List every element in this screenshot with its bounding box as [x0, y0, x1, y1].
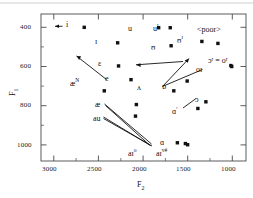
- data-point-marker: [169, 44, 172, 47]
- data-point-marker: [196, 107, 199, 110]
- data-point-marker: [103, 89, 106, 92]
- y-axis-title-sub: 1: [13, 89, 19, 92]
- point-label: ɑ: [160, 139, 164, 147]
- line-ae-to-ai: [106, 106, 150, 146]
- x-tick-1500: 1500: [176, 165, 191, 173]
- data-point-marker: [186, 143, 189, 146]
- point-label: i: [66, 21, 68, 29]
- data-point-marker: [204, 100, 207, 103]
- x-tick-3000: 3000: [42, 165, 57, 173]
- point-label-base: ɔ: [195, 95, 199, 104]
- point-label: ɛ: [98, 60, 101, 68]
- x-tick-1000: 1000: [221, 165, 236, 173]
- point-label: ɒ: [162, 83, 166, 91]
- data-point-marker: [135, 103, 138, 106]
- point-label-base: oɪ: [196, 65, 202, 74]
- point-label: au: [93, 115, 101, 123]
- point-label: oɪ: [196, 66, 202, 74]
- x-tick-2500: 2500: [87, 165, 102, 173]
- point-label: ɔʳ = oʳ: [208, 57, 228, 65]
- line-ae-to-ai-2: [105, 104, 152, 144]
- data-point-marker: [216, 42, 219, 45]
- data-point-marker: [117, 64, 120, 67]
- point-label: ʌ: [137, 84, 141, 92]
- point-label: ɔ: [195, 96, 199, 104]
- x-axis-title: F2: [137, 180, 144, 191]
- point-label: ɪ: [95, 38, 97, 46]
- point-label: uɪ: [153, 25, 159, 33]
- vowel-formant-chart: 400 600 800 1000 3000 2500 2000 1500 100…: [0, 0, 253, 198]
- point-label: ʊ: [151, 44, 155, 52]
- data-point-marker: [83, 26, 86, 29]
- point-label: æ: [95, 101, 100, 109]
- x-axis-title-sub: 2: [141, 185, 144, 191]
- point-label-base: ʌ: [137, 83, 141, 92]
- point-label: ʊɪ: [177, 37, 183, 45]
- data-point-marker: [172, 89, 175, 92]
- point-label-base: ʊ: [151, 43, 155, 52]
- y-tick-1000: 1000: [17, 141, 32, 149]
- point-label-base: ɒ: [162, 82, 166, 91]
- point-label-base: i: [66, 20, 68, 29]
- data-point-marker: [200, 40, 203, 43]
- point-label-base: ɔʳ = oʳ: [208, 56, 228, 65]
- point-label: ɑʳ: [172, 108, 177, 116]
- point-label-superscript: N: [75, 77, 79, 83]
- point-label: u: [128, 25, 132, 33]
- point-label-superscript: ʳ: [176, 105, 177, 111]
- point-label-base: ɪ: [95, 37, 97, 46]
- data-point-markers: [83, 26, 234, 147]
- y-axis-title-text: F: [8, 92, 17, 96]
- arrow-o-horizontal: [136, 62, 183, 65]
- y-tick-600: 600: [20, 62, 31, 70]
- data-point-marker: [230, 65, 233, 68]
- point-label: aɪo: [128, 150, 137, 158]
- point-label-superscript: v#: [162, 147, 168, 153]
- y-tick-800: 800: [20, 101, 31, 109]
- data-point-marker: [185, 79, 188, 82]
- point-label-superscript: o: [134, 147, 137, 153]
- y-tick-400: 400: [20, 23, 31, 31]
- data-point-marker: [116, 41, 119, 44]
- point-label-base: æ: [95, 100, 100, 109]
- data-point-marker: [169, 26, 172, 29]
- point-label-base: <poor>: [197, 25, 221, 34]
- point-label-superscript: ɪ: [181, 34, 183, 40]
- data-point-marker: [176, 141, 179, 144]
- x-tick-2000: 2000: [132, 165, 147, 173]
- point-label: aɪv#: [156, 150, 167, 158]
- point-label: æN: [70, 80, 79, 88]
- point-label-superscript: ɪ: [157, 22, 159, 28]
- point-label-base: ɑ: [160, 138, 164, 147]
- point-label: <poor>: [197, 26, 221, 34]
- data-point-marker: [129, 78, 132, 81]
- point-label-base: au: [93, 114, 101, 123]
- y-axis-title: F1: [8, 89, 19, 96]
- data-point-marker: [134, 114, 137, 117]
- arrow-e: [77, 56, 107, 80]
- point-label-base: e: [105, 74, 109, 83]
- point-label-base: ɛ: [98, 59, 101, 68]
- point-label: e: [105, 75, 109, 83]
- line-au-to-ai-2: [104, 119, 153, 147]
- point-label-base: u: [128, 24, 132, 33]
